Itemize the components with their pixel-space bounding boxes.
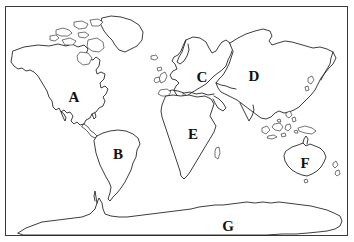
greenland-landmass (101, 16, 143, 52)
borneo (272, 123, 283, 131)
iberian-peninsula (158, 89, 171, 96)
ireland (154, 77, 160, 83)
world-map-figure: A B C D E F G (0, 0, 354, 242)
antarctica-landmass (18, 198, 342, 235)
south-america-landmass (94, 130, 140, 201)
baffin-island (87, 38, 104, 52)
region-label-b: B (113, 147, 123, 162)
great-britain (159, 72, 167, 83)
tasmania (304, 179, 308, 183)
new-zealand-north (333, 161, 338, 168)
arctic-island-5 (50, 35, 59, 41)
scandinavian-coast-islet (157, 67, 162, 71)
antarctic-peninsula (94, 191, 97, 203)
sumatra (262, 126, 270, 134)
region-label-f: F (300, 156, 309, 171)
region-label-g: G (222, 219, 234, 234)
region-label-a: A (69, 90, 80, 105)
madagascar (215, 147, 220, 159)
sulawesi (285, 124, 291, 131)
small-island-indonesia-1 (277, 119, 281, 122)
java (267, 135, 277, 139)
new-zealand-south (335, 170, 340, 176)
region-label-d: D (249, 69, 260, 84)
arctic-island-2 (74, 21, 88, 29)
new-guinea (298, 126, 316, 134)
arctic-island-1 (56, 28, 72, 36)
baja-peninsula (61, 112, 66, 121)
region-label-e: E (188, 127, 198, 142)
north-america-landmass (11, 44, 108, 125)
iceland (151, 55, 158, 60)
arabian-peninsula (213, 96, 226, 111)
cape-york (303, 136, 308, 144)
central-america (82, 124, 97, 138)
asia-landmass (216, 29, 336, 119)
arctic-island-4 (62, 38, 76, 45)
small-island-indonesia-2 (294, 130, 298, 133)
timor (281, 133, 286, 137)
world-map-drawing (0, 0, 354, 242)
arctic-island-6 (78, 32, 89, 38)
region-label-c: C (197, 70, 208, 85)
japan-islands-south (305, 86, 309, 91)
philippines-island-2 (292, 117, 296, 122)
